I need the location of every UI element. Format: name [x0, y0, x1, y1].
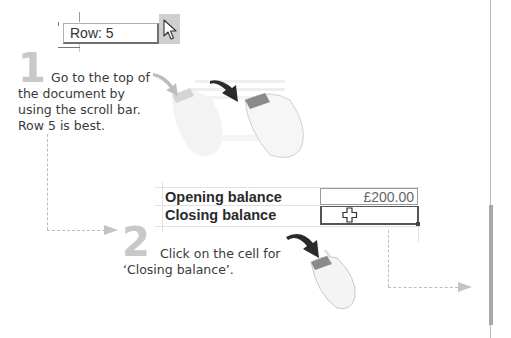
mouse-click-icon: [285, 232, 365, 312]
step-2-instruction: Click on the cell for ‘Closing balance’.: [123, 246, 303, 278]
row-box-edge: [58, 47, 80, 48]
cell-opening-balance-value[interactable]: £200.00: [320, 188, 418, 205]
connector-line: [47, 134, 48, 230]
fill-handle[interactable]: [416, 222, 420, 226]
cell-closing-balance-value[interactable]: [320, 206, 419, 225]
step-2-text-line1: Click on the cell for: [123, 246, 303, 262]
arrow-pointer-icon: [159, 14, 180, 44]
row-indicator-tooltip: Row: 5: [63, 23, 159, 44]
step-2-text-rest: ‘Closing balance’.: [123, 262, 303, 278]
row-box-tick: [79, 12, 80, 22]
connector-arrow-icon: [104, 225, 118, 235]
row-box-edge: [58, 22, 59, 26]
connector-arrow-icon: [458, 282, 472, 292]
cell-cross-cursor-icon: [342, 207, 358, 224]
connector-line: [47, 230, 105, 231]
mouse-click-illustration: [285, 232, 365, 312]
grid-line: [418, 226, 419, 242]
connector-line: [388, 287, 458, 288]
page-margin-bar: [489, 205, 493, 325]
connector-line: [388, 230, 389, 287]
step-1-text-line1: Go to the top of: [18, 70, 168, 86]
step-1-instruction: Go to the top of the document by using t…: [18, 70, 168, 134]
grid-line: [155, 226, 420, 227]
step-1-text-rest: the document by using the scroll bar. Ro…: [18, 86, 153, 134]
cell-closing-balance-label[interactable]: Closing balance: [165, 206, 276, 224]
mouse-scroll-illustration: [150, 70, 320, 160]
cell-opening-balance-label[interactable]: Opening balance: [165, 188, 282, 206]
row-box-tick: [79, 44, 80, 52]
cursor-highlight: [159, 14, 180, 44]
grid-line: [162, 182, 163, 232]
click-arrow-icon: [208, 80, 248, 110]
